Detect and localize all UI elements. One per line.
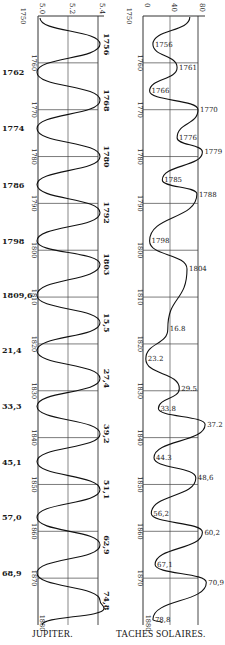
- year-tick-label: 1790: [30, 195, 38, 212]
- year-tick-label: 1810: [136, 289, 144, 306]
- jupiter-maximum-label: 51,1: [102, 480, 112, 499]
- jupiter-maximum-label: 1792: [102, 202, 112, 224]
- year-tick-label: 1800: [136, 242, 144, 259]
- jupiter-minimum-label: 1774: [2, 123, 25, 133]
- jupiter-minimum-label: 1798: [2, 236, 25, 246]
- year-tick-label: 1780: [30, 148, 38, 165]
- jupiter-maximum-label: 74,8: [102, 591, 112, 611]
- jupiter-maximum-label: 1803: [102, 253, 112, 276]
- year-tick-label: 1760: [30, 55, 38, 72]
- x-tick-label: 40: [170, 3, 178, 12]
- sunspot-maximum-label: 60,2: [204, 529, 220, 537]
- sunspot-maximum-label: 1804: [189, 265, 207, 273]
- year-tick-label: 1790: [136, 195, 144, 212]
- year-tick-label: 1750: [19, 8, 27, 25]
- year-tick-label: 1860: [30, 523, 38, 540]
- sunspot-minimum-label: 23.2: [148, 355, 164, 363]
- sunspot-minimum-label: 1798: [152, 237, 170, 245]
- sunspot-minimum-label: 67,1: [157, 561, 173, 569]
- caption-jupiter: JUPITER.: [32, 629, 73, 639]
- sunspot-maximum-label: 1770: [200, 106, 218, 114]
- x-tick-label: 5.0: [38, 3, 46, 14]
- year-tick-label: 1820: [136, 336, 144, 353]
- jupiter-minimum-label: 57,0: [2, 512, 22, 522]
- sunspot-minimum-label: 78,8: [155, 616, 171, 624]
- sunspot-maximum-label: 1788: [199, 191, 217, 199]
- x-tick-label: 0: [143, 3, 151, 7]
- sunspot-minimum-label: 56,2: [153, 510, 169, 518]
- year-tick-label: 1860: [136, 523, 144, 540]
- jupiter-curve: [37, 18, 104, 625]
- jupiter-maximum-label: 62,9: [102, 535, 112, 555]
- sunspot-maximum-label: 48,6: [198, 474, 214, 482]
- sunspot-minimum-label: 1785: [164, 176, 182, 184]
- jupiter-maximum-label: 39,2: [102, 424, 112, 443]
- jupiter-minimum-label: 45,1: [2, 457, 21, 467]
- panel-jupiter: 5.05.25.41750176017701780179018001810182…: [2, 3, 112, 631]
- sunspot-minimum-label: 1766: [152, 87, 170, 95]
- panel-taches-solaires: 0408017501760177017801790180018101820183…: [125, 3, 224, 631]
- sunspot-minimum-label: 44.3: [156, 454, 172, 462]
- jupiter-minimum-label: 68,9: [2, 568, 22, 578]
- sunspot-maximum-label: 29.5: [181, 385, 197, 393]
- jupiter-minimum-label: 1762: [2, 67, 24, 77]
- year-tick-label: 1760: [136, 55, 144, 72]
- sunspot-maximum-label: 16.8: [170, 325, 186, 333]
- sunspot-maximum-label: 1761: [179, 64, 197, 72]
- caption-taches-solaires: TACHES SOLAIRES.: [116, 629, 206, 639]
- year-tick-label: 1830: [136, 382, 144, 399]
- sunspot-maximum-label: 37.2: [207, 421, 223, 429]
- year-tick-label: 1840: [30, 429, 38, 446]
- jupiter-minimum-label: 1786: [2, 180, 25, 190]
- jupiter-minimum-label: 21,4: [2, 345, 22, 355]
- sunspot-maximum-label: 70,9: [208, 579, 224, 587]
- jupiter-minimum-label: 1809,6: [2, 290, 33, 300]
- year-tick-label: 1850: [30, 476, 38, 493]
- sunspot-maximum-label: 1779: [204, 148, 222, 156]
- jupiter-maximum-label: 1756: [102, 33, 112, 56]
- sunspot-minimum-label: 1776: [179, 134, 197, 142]
- year-tick-label: 1840: [136, 429, 144, 446]
- jupiter-maximum-label: 27,4: [102, 369, 112, 389]
- x-tick-label: 80: [198, 3, 206, 12]
- year-tick-label: 1770: [136, 101, 144, 118]
- year-tick-label: 1800: [30, 242, 38, 259]
- year-tick-label: 1870: [136, 570, 144, 587]
- sunspot-minimum-label: 1756: [155, 41, 173, 49]
- year-tick-label: 1780: [136, 148, 144, 165]
- year-tick-label: 1770: [30, 101, 38, 118]
- taches-solaires-curve: [146, 17, 207, 623]
- chart-canvas: 5.05.25.41750176017701780179018001810182…: [0, 0, 225, 645]
- sunspot-minimum-label: 33.8: [160, 405, 176, 413]
- x-tick-label: 5.4: [98, 3, 106, 15]
- x-tick-label: 5.2: [68, 3, 76, 14]
- year-tick-label: 1850: [136, 476, 144, 493]
- jupiter-maximum-label: 15,5: [102, 313, 112, 332]
- jupiter-maximum-label: 1780: [102, 145, 112, 168]
- jupiter-minimum-label: 33,3: [2, 401, 22, 411]
- year-tick-label: 1830: [30, 382, 38, 399]
- jupiter-maximum-label: 1768: [102, 89, 112, 112]
- year-tick-label: 1750: [125, 8, 133, 25]
